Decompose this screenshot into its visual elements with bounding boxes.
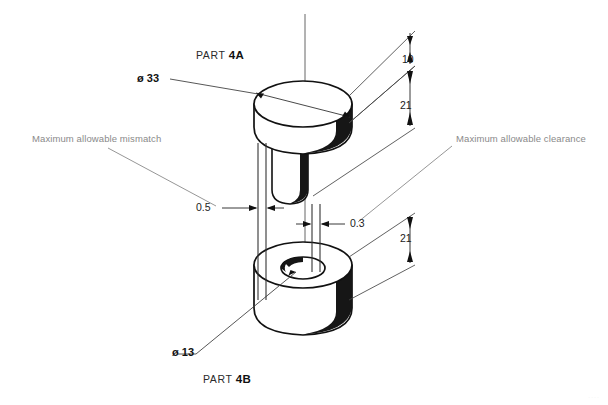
corner-watermark: .... — [588, 392, 600, 399]
part-4b-prefix: PART — [203, 373, 232, 385]
dimension-10-label: 10 — [402, 54, 414, 65]
part-4a-label: PART 4A — [196, 50, 244, 62]
diameter-13-label: ø 13 — [172, 347, 194, 358]
note-maximum-allowable-clearance: Maximum allowable clearance — [456, 134, 586, 144]
part-4b-id: 4B — [236, 373, 251, 385]
dimension-21-top-label: 21 — [400, 100, 412, 111]
part-4a-prefix: PART — [196, 49, 225, 61]
note-leader-right — [358, 146, 452, 222]
part-4a-id: 4A — [229, 49, 244, 61]
note-maximum-allowable-mismatch: Maximum allowable mismatch — [32, 134, 161, 144]
dimension-21-bottom-label: 21 — [400, 233, 412, 244]
mismatch-value-label: 0.5 — [196, 202, 211, 213]
diameter-33-leader — [170, 79, 258, 94]
part-4b-body — [254, 242, 352, 335]
diameter-33-label: ø 33 — [137, 73, 159, 84]
mismatch-dimension-arrows — [222, 205, 284, 211]
part-4b-label: PART 4B — [203, 374, 251, 386]
technical-drawing-canvas: PART 4A PART 4B ø 33 ø 13 10 21 21 0.5 0… — [0, 0, 608, 405]
isometric-assembly-drawing — [0, 0, 608, 405]
note-leader-left — [108, 148, 216, 206]
clearance-value-label: 0.3 — [350, 218, 365, 229]
part-4a-body — [254, 81, 352, 204]
